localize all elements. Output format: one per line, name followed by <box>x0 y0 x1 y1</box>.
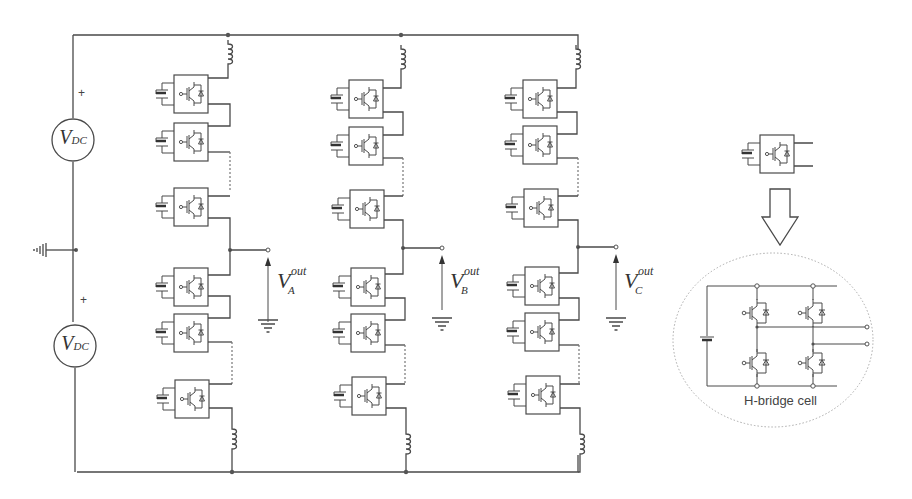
converter-diagram <box>0 0 912 499</box>
phase-b-leg <box>331 33 452 474</box>
h-bridge-cell <box>700 284 869 388</box>
vdc-top-label: VDC <box>51 126 95 149</box>
h-bridge-caption: H-bridge cell <box>744 393 817 408</box>
vdc-bottom-label: VDC <box>53 332 97 355</box>
phase-c-leg <box>505 45 626 472</box>
vdc-top-polarity: + <box>78 86 85 100</box>
vout-b-label: V out B <box>450 268 463 294</box>
vout-c-label: V out C <box>624 268 637 294</box>
vout-a-label: V out A <box>277 268 290 294</box>
phase-a-leg <box>156 33 278 474</box>
vdc-bottom-polarity: + <box>80 293 87 307</box>
dc-rails <box>33 35 578 472</box>
submodule-symbol <box>742 135 813 173</box>
down-arrow <box>762 189 798 245</box>
